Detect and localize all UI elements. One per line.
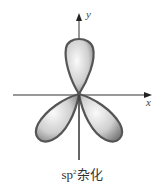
caption: sp2杂化 <box>0 164 164 183</box>
caption-suffix: 杂化 <box>77 167 103 182</box>
y-axis-label: y <box>86 8 91 20</box>
sp2-orbital-diagram <box>0 0 164 190</box>
caption-base: sp <box>61 167 73 182</box>
x-axis-label: x <box>146 96 151 108</box>
orbital-lobe-lower-right <box>79 94 122 141</box>
orbital-lobe-lower-left <box>36 94 79 141</box>
y-axis-arrow-icon <box>76 13 82 21</box>
orbital-lobe-top <box>66 39 94 94</box>
